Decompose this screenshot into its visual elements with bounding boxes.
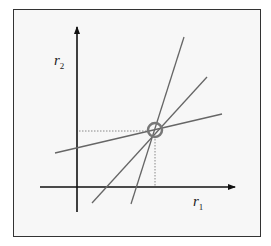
steep-line: [131, 37, 184, 204]
diagram-canvas: [0, 0, 271, 246]
shallow-line: [55, 114, 222, 153]
x-axis-label: r1: [193, 193, 203, 212]
y-axis-label: r2: [54, 52, 64, 71]
